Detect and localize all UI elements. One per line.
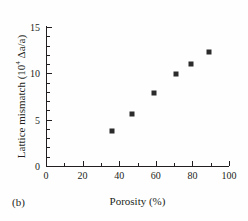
x-tick-minor bbox=[174, 163, 175, 166]
y-tick-label: 0 bbox=[35, 161, 40, 172]
x-tick-label: 40 bbox=[114, 170, 124, 181]
y-axis-title-tail: Δa/a) bbox=[15, 35, 27, 61]
x-tick-label: 100 bbox=[222, 170, 237, 181]
y-tick-major bbox=[47, 166, 52, 167]
y-tick-label: 10 bbox=[30, 68, 40, 79]
y-tick-minor bbox=[47, 46, 50, 47]
y-tick-minor bbox=[47, 64, 50, 65]
y-tick-label: 5 bbox=[35, 114, 40, 125]
y-tick-major bbox=[47, 73, 52, 74]
y-tick-minor bbox=[47, 157, 50, 158]
y-tick-major bbox=[47, 27, 52, 28]
data-point bbox=[173, 72, 178, 77]
data-point bbox=[188, 62, 193, 67]
x-tick-major bbox=[192, 161, 193, 166]
y-tick-minor bbox=[47, 36, 50, 37]
y-tick-minor bbox=[47, 83, 50, 84]
y-axis-title: Lattice mismatch (104 Δa/a) bbox=[14, 27, 30, 166]
x-tick-major bbox=[119, 161, 120, 166]
x-tick-label: 0 bbox=[44, 170, 49, 181]
y-tick-major bbox=[47, 120, 52, 121]
x-tick-major bbox=[83, 161, 84, 166]
figure-panel-b: 020406080100 051015 Porosity (%) Lattice… bbox=[0, 0, 248, 221]
y-axis-title-main: Lattice mismatch (10 bbox=[15, 65, 27, 158]
x-axis-line bbox=[46, 166, 229, 167]
y-axis-line bbox=[46, 26, 47, 167]
y-tick-minor bbox=[47, 147, 50, 148]
y-tick-minor bbox=[47, 55, 50, 56]
y-tick-minor bbox=[47, 92, 50, 93]
x-tick-label: 20 bbox=[78, 170, 88, 181]
x-tick-major bbox=[229, 161, 230, 166]
y-axis-title-exponent: 4 bbox=[14, 61, 22, 65]
x-tick-label: 80 bbox=[187, 170, 197, 181]
data-point bbox=[109, 128, 114, 133]
y-tick-label: 15 bbox=[30, 22, 40, 33]
x-tick-label: 60 bbox=[151, 170, 161, 181]
y-tick-minor bbox=[47, 110, 50, 111]
x-tick-minor bbox=[101, 163, 102, 166]
data-point bbox=[130, 112, 135, 117]
panel-label: (b) bbox=[12, 196, 25, 208]
x-tick-minor bbox=[64, 163, 65, 166]
x-axis-title: Porosity (%) bbox=[46, 195, 229, 207]
y-tick-minor bbox=[47, 129, 50, 130]
y-tick-minor bbox=[47, 101, 50, 102]
y-tick-minor bbox=[47, 138, 50, 139]
x-tick-major bbox=[156, 161, 157, 166]
x-tick-minor bbox=[138, 163, 139, 166]
data-point bbox=[206, 50, 211, 55]
x-tick-minor bbox=[211, 163, 212, 166]
data-point bbox=[151, 90, 156, 95]
